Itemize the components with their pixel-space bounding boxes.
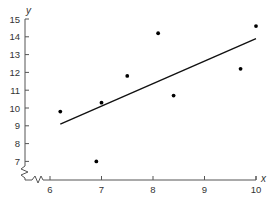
y-tick-label: 13 — [9, 49, 20, 60]
x-tick-label: 7 — [99, 184, 104, 195]
data-point — [254, 24, 258, 28]
data-point — [156, 31, 160, 35]
y-tick-label: 8 — [15, 138, 20, 149]
x-axis-line-with-break — [25, 176, 256, 183]
x-axis: 678910 x — [25, 173, 267, 195]
y-axis-ticks: 789101112131415 — [9, 14, 29, 167]
x-tick-label: 8 — [150, 184, 155, 195]
y-axis-line-with-break — [21, 19, 28, 180]
regression-line-segment — [60, 39, 256, 124]
x-tick-label: 6 — [47, 184, 52, 195]
x-tick-label: 10 — [251, 184, 262, 195]
y-axis: 789101112131415 y — [9, 5, 32, 180]
y-tick-label: 14 — [9, 31, 20, 42]
y-axis-label: y — [25, 5, 32, 16]
data-point — [58, 110, 62, 114]
y-tick-label: 11 — [10, 85, 20, 96]
x-axis-label: x — [260, 173, 267, 184]
y-tick-label: 10 — [9, 103, 20, 114]
y-tick-label: 7 — [15, 156, 20, 167]
data-point — [125, 74, 129, 78]
x-axis-ticks: 678910 — [47, 176, 261, 195]
scatter-chart: 789101112131415 y 678910 x — [0, 0, 270, 201]
y-tick-label: 15 — [9, 14, 20, 25]
y-tick-label: 12 — [9, 67, 20, 78]
y-tick-label: 9 — [15, 120, 20, 131]
data-point — [94, 160, 98, 164]
x-tick-label: 9 — [202, 184, 207, 195]
regression-line — [60, 39, 256, 124]
data-points — [58, 24, 258, 163]
data-point — [239, 67, 243, 71]
data-point — [172, 94, 176, 98]
data-point — [100, 101, 104, 105]
